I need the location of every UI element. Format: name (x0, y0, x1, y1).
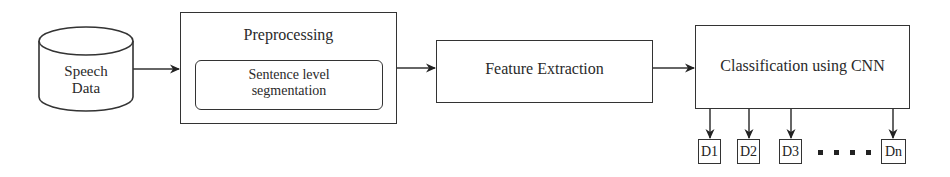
output-d1: D1 (698, 139, 721, 164)
ellipsis-dot-2 (834, 150, 839, 155)
output-d2: D2 (737, 139, 760, 164)
feature-extraction-label: Feature Extraction (436, 60, 653, 78)
output-d3: D3 (779, 139, 802, 164)
ellipsis-dot-4 (866, 150, 871, 155)
ellipsis-dot-1 (818, 150, 823, 155)
preprocessing-title: Preprocessing (180, 26, 397, 44)
speech-data-line-1: Speech (39, 63, 133, 80)
speech-data-label: Speech Data (39, 63, 133, 98)
segmentation-line-1: Sentence level (195, 67, 383, 83)
speech-data-line-2: Data (39, 80, 133, 97)
classification-label: Classification using CNN (695, 57, 910, 75)
output-dn: Dn (881, 139, 906, 164)
ellipsis-dot-3 (850, 150, 855, 155)
segmentation-line-2: segmentation (195, 83, 383, 99)
segmentation-label: Sentence level segmentation (195, 67, 383, 99)
